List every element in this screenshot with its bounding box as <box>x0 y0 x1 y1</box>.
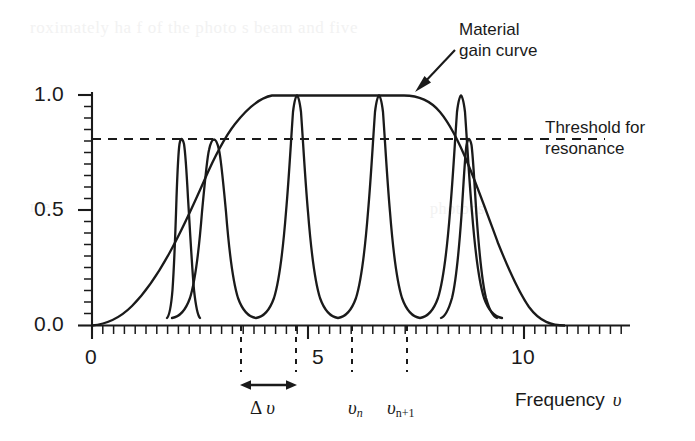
delta-nu-arrow <box>240 380 297 390</box>
nu-n1-subscript: n+1 <box>396 406 415 420</box>
x-axis-ticks <box>92 326 621 340</box>
nu-symbol-delta: υ <box>266 397 275 418</box>
gain-curve-callout-arrow <box>415 50 455 92</box>
material-gain-curve <box>92 96 565 326</box>
x-axis-title-text: Frequency <box>515 389 605 410</box>
delta-nu-label: Δυ <box>250 397 275 419</box>
x-tick-label-10: 10 <box>511 345 535 370</box>
mode-label-nu-n-plus-1: υn+1 <box>387 397 415 420</box>
delta-symbol: Δ <box>250 397 262 418</box>
figure-canvas: roximately ha f of the photo s beam and … <box>0 0 695 441</box>
x-axis-title-symbol: υ <box>613 389 622 410</box>
chart-svg <box>0 0 695 441</box>
nu-symbol-n: υ <box>348 397 357 418</box>
arrow-head-right <box>286 380 297 390</box>
gain-curve-label-line1: Material <box>459 20 519 40</box>
nu-symbol-n1: υ <box>387 397 396 418</box>
nu-n-subscript: n <box>357 406 363 420</box>
gain-curve-label-line2: gain curve <box>459 41 537 61</box>
y-axis-ticks <box>78 95 92 326</box>
x-axis-title: Frequencyυ <box>515 389 622 411</box>
mode-label-nu-n: υn <box>348 397 363 420</box>
y-tick-label-1: 1.0 <box>34 82 64 107</box>
cavity-mode-peak-first <box>167 139 200 318</box>
arrow-head-left <box>240 380 251 390</box>
x-tick-label-5: 5 <box>312 345 324 370</box>
threshold-label-line2: resonance <box>545 139 624 159</box>
y-tick-label-0: 0.0 <box>34 312 64 337</box>
threshold-label-line1: Threshold for <box>545 118 645 138</box>
x-tick-label-0: 0 <box>85 345 97 370</box>
mode-marker-dashed-verticals <box>241 326 407 372</box>
y-tick-label-0-5: 0.5 <box>34 197 64 222</box>
